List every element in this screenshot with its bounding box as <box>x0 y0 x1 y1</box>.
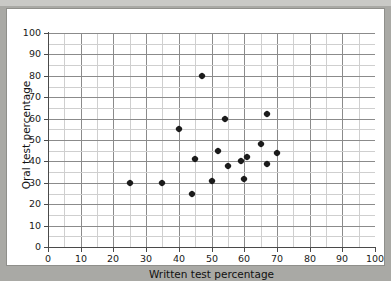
figure-card: 0102030405060708090100 01020304050607080… <box>6 8 385 266</box>
gridline-horizontal <box>48 172 375 173</box>
x-axis-tick-label: 20 <box>98 254 128 264</box>
y-axis-line <box>48 32 49 248</box>
x-axis-tick-label: 0 <box>33 254 63 264</box>
x-axis-tick <box>146 248 147 252</box>
y-axis-tick <box>44 97 48 98</box>
y-axis-tick <box>44 183 48 184</box>
y-axis-tick <box>44 161 48 162</box>
gridline-horizontal <box>48 76 375 77</box>
y-axis-tick <box>44 119 48 120</box>
x-axis-tick-label: 100 <box>360 254 390 264</box>
gridline-horizontal <box>48 65 375 66</box>
gridline-horizontal <box>48 44 375 45</box>
gridline-horizontal <box>48 161 375 162</box>
gridline-horizontal <box>48 151 375 152</box>
x-axis-tick-label: 90 <box>327 254 357 264</box>
gridline-horizontal <box>48 54 375 55</box>
x-axis-tick <box>113 248 114 252</box>
gridline-horizontal <box>48 215 375 216</box>
x-axis-tick <box>277 248 278 252</box>
gridline-horizontal <box>48 226 375 227</box>
x-axis-tick <box>375 248 376 252</box>
x-axis-tick-label: 40 <box>164 254 194 264</box>
gridline-horizontal <box>48 236 375 237</box>
gridline-horizontal <box>48 97 375 98</box>
gridline-horizontal <box>48 119 375 120</box>
gridline-horizontal <box>48 140 375 141</box>
y-axis-tick-label: 0 <box>15 242 41 252</box>
x-axis-tick <box>179 248 180 252</box>
x-axis-tick <box>48 248 49 252</box>
y-axis-title: Oral test percentage <box>20 60 32 210</box>
y-axis-tick <box>44 33 48 34</box>
x-axis-tick <box>342 248 343 252</box>
gridlines <box>48 33 375 247</box>
x-axis-tick <box>212 248 213 252</box>
y-axis-tick <box>44 140 48 141</box>
x-axis-tick <box>81 248 82 252</box>
gridline-horizontal <box>48 33 375 34</box>
x-axis-tick <box>310 248 311 252</box>
y-axis-tick <box>44 226 48 227</box>
x-axis-tick-label: 70 <box>262 254 292 264</box>
y-axis-tick <box>44 54 48 55</box>
scatter-plot-figure: 0102030405060708090100 01020304050607080… <box>0 0 391 281</box>
plot-area <box>48 33 375 247</box>
x-axis-tick-label: 10 <box>66 254 96 264</box>
gridline-horizontal <box>48 87 375 88</box>
x-axis-tick-label: 80 <box>295 254 325 264</box>
gridline-horizontal <box>48 204 375 205</box>
x-axis-tick <box>244 248 245 252</box>
gridline-horizontal <box>48 108 375 109</box>
gridline-horizontal <box>48 194 375 195</box>
y-axis-tick <box>44 76 48 77</box>
y-axis-tick <box>44 204 48 205</box>
x-axis-tick-label: 30 <box>131 254 161 264</box>
y-axis-tick-label: 100 <box>15 28 41 38</box>
gridline-horizontal <box>48 129 375 130</box>
x-axis-title: Written test percentage <box>48 268 375 280</box>
y-axis-tick-label: 90 <box>15 49 41 59</box>
y-axis-tick-label: 10 <box>15 221 41 231</box>
x-axis-tick-label: 50 <box>197 254 227 264</box>
x-axis-tick-label: 60 <box>229 254 259 264</box>
